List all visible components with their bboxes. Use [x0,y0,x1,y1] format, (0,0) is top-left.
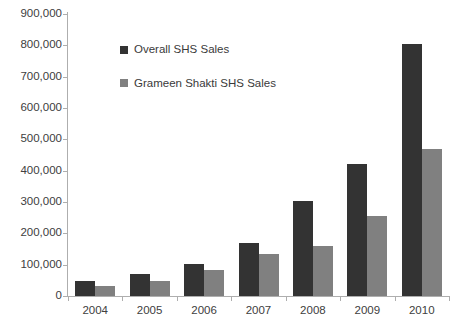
x-axis-tick [395,296,396,301]
y-axis-tick-label: 0 [0,290,62,302]
x-axis-tick-label: 2007 [231,305,285,317]
gray-square-marker-icon [120,79,128,87]
bar-overall-shs-sales [75,281,95,296]
chart-legend: Overall SHS Sales Grameen Shakti SHS Sal… [120,44,276,111]
bar-grameen-shakti-shs-sales [422,149,442,296]
y-axis-tick-label: 100,000 [0,259,62,271]
x-axis-tick-label: 2008 [286,305,340,317]
bar-grameen-shakti-shs-sales [204,270,224,296]
y-axis-tick-label: 500,000 [0,133,62,145]
x-axis-tick [68,296,69,301]
x-axis-tick-label: 2005 [122,305,176,317]
bar-group [75,14,115,296]
x-axis-tick [177,296,178,301]
x-axis-tick [449,296,450,301]
x-axis-tick [286,296,287,301]
y-axis-tick-label: 400,000 [0,165,62,177]
bar-overall-shs-sales [402,44,422,296]
bar-grameen-shakti-shs-sales [313,246,333,296]
x-axis-line [68,296,449,297]
x-axis-labels: 2004200520062007200820092010 [68,305,449,329]
y-axis-labels: 900,000 800,000 700,000 600,000 500,000 … [0,0,62,335]
y-axis-tick-label: 600,000 [0,102,62,114]
bar-group [402,14,442,296]
bar-grameen-shakti-shs-sales [259,254,279,296]
y-axis-tick-label: 700,000 [0,71,62,83]
x-axis-tick [122,296,123,301]
x-axis-tick [231,296,232,301]
legend-item-overall: Overall SHS Sales [120,44,276,56]
bar-chart: 900,000 800,000 700,000 600,000 500,000 … [0,0,456,335]
bar-overall-shs-sales [347,164,367,296]
bar-overall-shs-sales [130,274,150,296]
bar-overall-shs-sales [239,243,259,296]
bar-overall-shs-sales [184,264,204,296]
x-axis-tick [340,296,341,301]
bar-grameen-shakti-shs-sales [367,216,387,296]
legend-label: Grameen Shakti SHS Sales [134,78,276,90]
y-axis-tick-label: 200,000 [0,227,62,239]
bar-grameen-shakti-shs-sales [150,281,170,296]
legend-item-grameen: Grameen Shakti SHS Sales [120,78,276,90]
x-axis-tick-label: 2010 [395,305,449,317]
y-axis-tick-label: 900,000 [0,8,62,20]
bar-overall-shs-sales [293,201,313,296]
legend-label: Overall SHS Sales [134,44,229,56]
x-axis-tick-label: 2006 [177,305,231,317]
x-axis-tick-label: 2009 [340,305,394,317]
y-axis-tick-label: 300,000 [0,196,62,208]
y-axis-tick-label: 800,000 [0,39,62,51]
x-axis-tick-label: 2004 [68,305,122,317]
bar-group [293,14,333,296]
bar-grameen-shakti-shs-sales [95,286,115,296]
bar-group [347,14,387,296]
dark-square-marker-icon [120,46,128,54]
